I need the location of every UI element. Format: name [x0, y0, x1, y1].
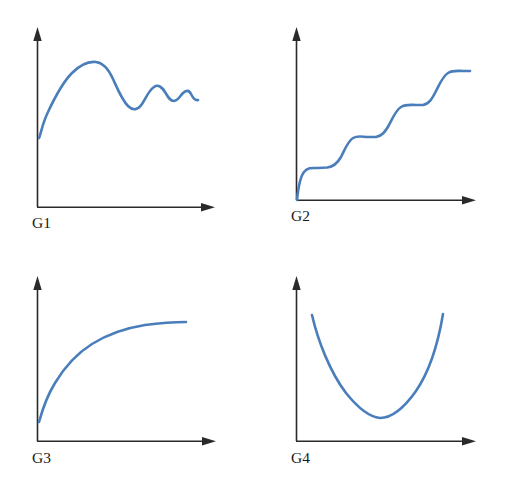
chart-panel-g3: G3 — [0, 248, 257, 496]
chart-panel-g2: G2 — [258, 0, 515, 248]
axes-g1 — [33, 27, 215, 211]
curve-g3 — [39, 322, 186, 422]
x-axis-arrowhead-g2 — [462, 196, 476, 204]
axes-g4 — [292, 276, 476, 445]
axes-g2 — [292, 27, 476, 204]
chart-panel-g1: G1 — [0, 0, 257, 248]
x-axis-arrowhead-g1 — [201, 203, 215, 211]
curve-g2 — [297, 71, 470, 200]
chart-panel-g4: G4 — [258, 248, 515, 496]
curve-g1 — [39, 62, 198, 138]
figure-root: G1 G2 — [0, 0, 515, 496]
y-axis-arrowhead-g3 — [33, 276, 41, 290]
panel-label-g3: G3 — [32, 449, 51, 466]
y-axis-arrowhead-g2 — [292, 27, 300, 41]
x-axis-arrowhead-g3 — [202, 437, 216, 445]
panel-label-g1: G1 — [32, 214, 51, 231]
y-axis-arrowhead-g4 — [292, 276, 300, 290]
panel-label-g4: G4 — [291, 449, 310, 466]
panel-label-g2: G2 — [291, 207, 310, 224]
y-axis-arrowhead-g1 — [33, 27, 41, 41]
panel-grid: G1 G2 — [0, 0, 515, 496]
curve-g4 — [312, 314, 443, 418]
axes-g3 — [33, 276, 216, 445]
x-axis-arrowhead-g4 — [462, 437, 476, 445]
